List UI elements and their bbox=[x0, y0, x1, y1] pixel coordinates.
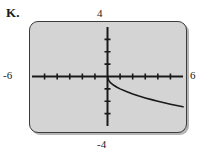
problem-letter-label: K. bbox=[6, 6, 20, 19]
x-min-label: -6 bbox=[3, 70, 12, 81]
x-max-label: 6 bbox=[190, 70, 196, 81]
y-max-label: 4 bbox=[97, 8, 103, 19]
calculator-screen bbox=[29, 21, 187, 133]
plot-canvas bbox=[30, 22, 185, 131]
y-min-label: -4 bbox=[97, 139, 106, 150]
graph-figure: K. 4 -4 -6 6 bbox=[0, 0, 203, 156]
function-curve bbox=[108, 77, 184, 107]
